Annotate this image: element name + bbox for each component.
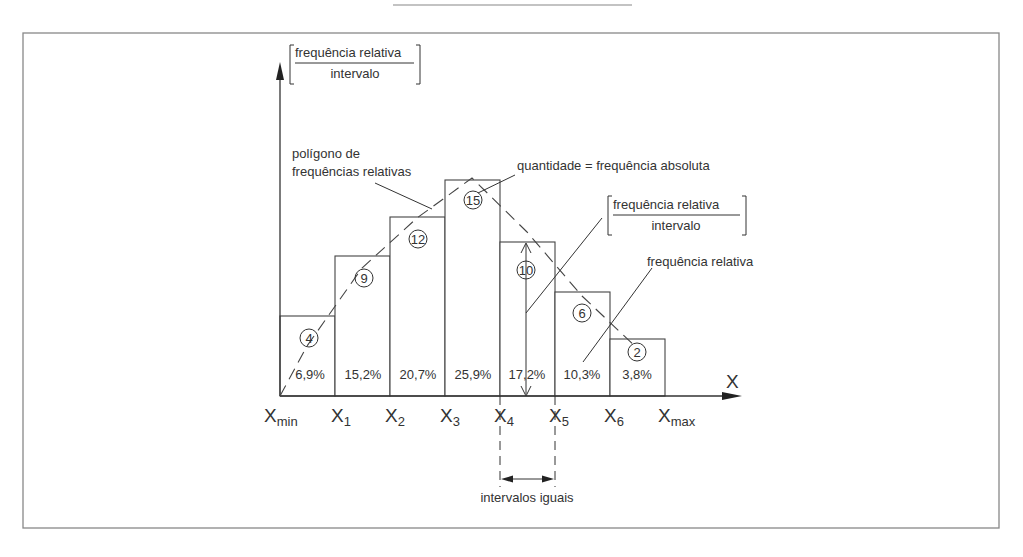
x-axis-arrow-icon	[722, 392, 742, 400]
bar-1-percent: 6,9%	[295, 367, 325, 382]
polygon-label-line1: polígono de	[292, 146, 360, 161]
polygon-label-line2: frequências relativas	[292, 164, 412, 179]
bar-4-percent: 25,9%	[455, 367, 492, 382]
tick-x2: X2	[385, 405, 405, 429]
density-numerator: frequência relativa	[613, 197, 720, 212]
tick-x6: X6	[604, 405, 624, 429]
tick-x5: X5	[549, 405, 569, 429]
bar-4-count: 15	[466, 193, 480, 208]
density-label: frequência relativa intervalo	[608, 196, 746, 235]
bar-2-count: 9	[360, 271, 367, 286]
bar-5-count: 10	[519, 263, 533, 278]
histogram-bars	[280, 180, 665, 396]
bar-7-percent: 3,8%	[622, 367, 652, 382]
tick-xmax: Xmax	[658, 405, 696, 429]
y-label-numerator: frequência relativa	[295, 45, 402, 60]
histogram-figure: 4 9 12 15 10 6 2 6,9% 15,2% 20,7% 25,9% …	[0, 0, 1023, 557]
tick-x4: X4	[494, 405, 514, 429]
density-denominator: intervalo	[651, 218, 700, 233]
y-axis-arrow-icon	[276, 62, 284, 80]
bar-1-count: 4	[305, 331, 312, 346]
tick-x3: X3	[440, 405, 460, 429]
bar-7-count: 2	[633, 345, 640, 360]
bar-5-percent: 17,2%	[509, 367, 546, 382]
bar-6-percent: 10,3%	[564, 367, 601, 382]
polygon-leader	[375, 183, 432, 209]
relative-frequency-label: frequência relativa	[647, 254, 754, 269]
x-axis-label: X	[726, 371, 739, 392]
y-label-denominator: intervalo	[330, 66, 379, 81]
equal-intervals-label: intervalos iguais	[480, 490, 574, 505]
bar-1	[280, 316, 335, 396]
bar-3-percent: 20,7%	[400, 367, 437, 382]
bar-4	[445, 180, 500, 396]
bar-3-count: 12	[411, 232, 425, 247]
bar-6-count: 6	[578, 306, 585, 321]
equal-intervals-indicator	[500, 396, 555, 487]
quantity-label: quantidade = frequência absoluta	[517, 158, 710, 173]
y-axis-label: frequência relativa intervalo	[290, 45, 420, 84]
bar-2-percent: 15,2%	[345, 367, 382, 382]
tick-xmin: Xmin	[264, 405, 298, 429]
tick-x1: X1	[331, 405, 351, 429]
